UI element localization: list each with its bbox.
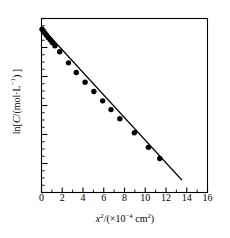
data-point bbox=[52, 43, 57, 48]
x-tick-label: 14 bbox=[180, 192, 194, 203]
y-axis-ticks bbox=[42, 19, 48, 193]
data-point bbox=[117, 116, 122, 121]
chart-figure: ln[C/(mol·L−1) ] x2/(×10−4 cm2) 02468101… bbox=[0, 0, 230, 238]
data-point bbox=[74, 70, 79, 75]
x-tick-label: 4 bbox=[76, 192, 90, 203]
data-point bbox=[108, 107, 113, 112]
data-point bbox=[91, 89, 96, 94]
x-axis-label: x2/(×10−4 cm2) bbox=[40, 213, 210, 224]
x-tick-label: 2 bbox=[55, 192, 69, 203]
x-tick-label: 0 bbox=[35, 192, 49, 203]
x-tick-label: 6 bbox=[97, 192, 111, 203]
data-points bbox=[39, 26, 162, 161]
plot-frame bbox=[42, 19, 208, 193]
x-axis-label-text: x2/(×10−4 cm2) bbox=[96, 213, 154, 224]
data-point bbox=[146, 145, 151, 150]
y-axis-label: ln[C/(mol·L−1) ] bbox=[11, 42, 22, 162]
y-axis-label-text: ln[C/(mol·L−1) ] bbox=[11, 69, 22, 134]
x-tick-label: 10 bbox=[138, 192, 152, 203]
data-point bbox=[132, 130, 137, 135]
data-point bbox=[66, 60, 71, 65]
data-point bbox=[157, 156, 162, 161]
x-tick-label: 8 bbox=[118, 192, 132, 203]
data-point bbox=[57, 49, 62, 54]
data-point bbox=[82, 80, 87, 85]
x-tick-label: 16 bbox=[201, 192, 215, 203]
data-point bbox=[100, 98, 105, 103]
x-tick-label: 12 bbox=[159, 192, 173, 203]
